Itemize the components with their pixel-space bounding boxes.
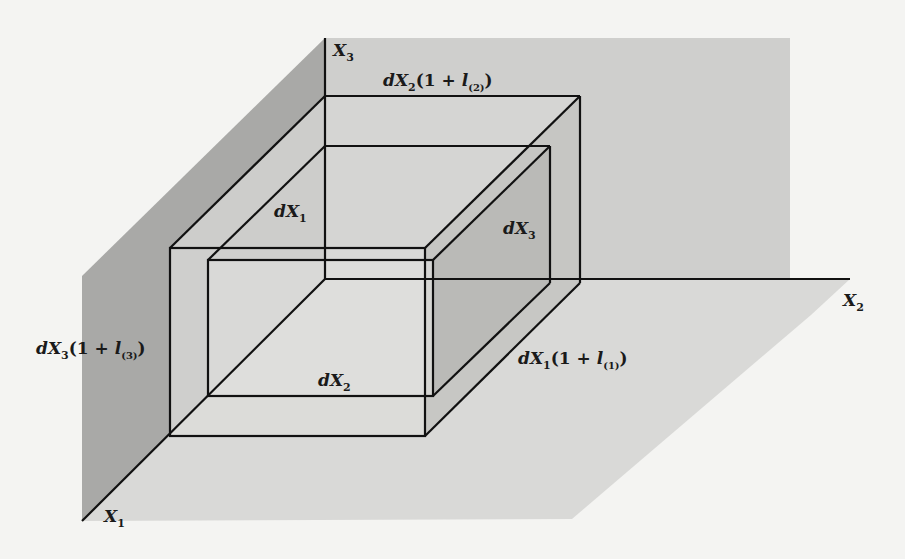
label-dx3-deformed: dX3(1 + l(3)): [36, 340, 146, 357]
label-dx2: dX2: [318, 372, 351, 389]
axis-label-x3: X3: [333, 42, 354, 59]
label-dx3: dX3: [503, 220, 536, 237]
label-dx2-deformed: dX2(1 + l(2)): [383, 72, 493, 89]
label-dx1-deformed: dX1(1 + l(1)): [518, 350, 628, 367]
deformation-diagram: X3 X2 X1 dX1 dX2 dX3 dX2(1 + l(2)) dX3(1…: [0, 0, 905, 559]
label-dx1: dX1: [274, 203, 307, 220]
axis-label-x2: X2: [843, 292, 864, 309]
axis-label-x1: X1: [104, 508, 125, 525]
